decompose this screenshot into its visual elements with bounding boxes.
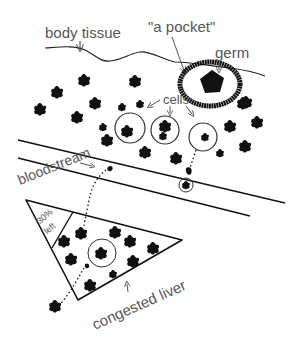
migrating-cell [186, 167, 192, 174]
cells-arrow-1 [150, 100, 160, 106]
body-tissue-label: body tissue [45, 24, 121, 41]
cells-label: cells [163, 92, 190, 107]
germ-pocket: germ [180, 44, 249, 106]
blood-cell [107, 166, 112, 171]
pocket-label: "a pocket" [148, 18, 215, 35]
migration-path [190, 150, 196, 168]
liver-arrow [127, 284, 128, 292]
bloodstream-label: bloodstream [15, 144, 92, 188]
exiting-cell [49, 300, 61, 313]
flow-arrow [80, 163, 92, 166]
germ-icon [200, 70, 224, 93]
cells-arrow-3 [186, 106, 192, 114]
diagram-canvas: body tissue "a pocket" germ cells [0, 0, 300, 344]
congested-liver: 30% left [26, 200, 182, 300]
pocket-arrow [172, 37, 184, 70]
circled-cells [115, 113, 217, 151]
germ-label: germ [215, 44, 249, 61]
